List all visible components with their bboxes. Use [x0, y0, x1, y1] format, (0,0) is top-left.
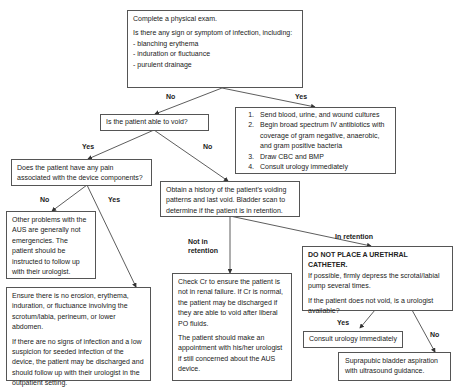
node-history: Obtain a history of the patient's voidin…: [160, 181, 300, 217]
in-retention-p1: If possible, firmly depress the scrotal/…: [308, 271, 447, 292]
ensure-p1: Ensure there is no erosion, erythema, in…: [12, 291, 145, 333]
node-check-cr: Check Cr to ensure the patient is not in…: [172, 273, 292, 381]
history-text: Obtain a history of the patient's voidin…: [166, 185, 294, 216]
consult-urology-text: Consult urology immediately: [309, 334, 397, 344]
node-suprapubic: Suprapubic bladder aspiration with ultra…: [338, 352, 451, 381]
node-in-retention: DO NOT PLACE A URETHRAL CATHETER. If pos…: [302, 246, 453, 311]
node-infection-actions: Send blood, urine, and wound cultures Be…: [235, 107, 396, 174]
node-ensure-no-erosion: Ensure there is no erosion, erythema, in…: [6, 287, 151, 381]
sign-item: - induration or fluctuance: [133, 49, 297, 59]
suprapubic-text: Suprapubic bladder aspiration with ultra…: [345, 356, 444, 377]
edge-label-pain-yes: Yes: [108, 195, 120, 204]
action-item: Draw CBC and BMP: [256, 152, 391, 162]
infection-actions-list: Send blood, urine, and wound cultures Be…: [240, 110, 391, 172]
edge-label-urologist-no: No: [430, 330, 439, 339]
in-retention-p2: If the patient does not void, is a urolo…: [308, 296, 447, 317]
edge-label-not-in-retention: Not in retention: [188, 237, 218, 255]
action-item: Consult urology immediately: [256, 162, 391, 172]
sign-item: - purulent drainage: [133, 60, 297, 70]
ensure-p2: If there are no signs of infection and a…: [12, 337, 145, 389]
check-cr-p2: The patient should make an appointment w…: [178, 333, 286, 375]
node-other-problems: Other problems with the AUS are generall…: [6, 211, 96, 279]
edge-label-urologist-yes: Yes: [337, 318, 349, 327]
node-physical-exam: Complete a physical exam. Is there any s…: [127, 10, 303, 88]
edge-label-pain-no: No: [40, 195, 49, 204]
no-catheter-warning: DO NOT PLACE A URETHRAL CATHETER.: [308, 250, 447, 271]
check-cr-p1: Check Cr to ensure the patient is not in…: [178, 277, 286, 329]
exam-line2: Is there any sign or symptom of infectio…: [133, 28, 297, 38]
edge-label-exam-no: No: [166, 92, 175, 101]
node-able-to-void: Is the patient able to void?: [100, 114, 209, 131]
void-question-text: Is the patient able to void?: [106, 117, 203, 127]
pain-question-text: Does the patient have any pain associate…: [17, 163, 146, 184]
node-pain-question: Does the patient have any pain associate…: [11, 159, 152, 186]
edge-label-void-yes: Yes: [82, 142, 94, 151]
exam-line1: Complete a physical exam.: [133, 14, 297, 24]
other-problems-text: Other problems with the AUS are generall…: [12, 215, 90, 277]
action-item: Begin broad spectrum IV antibiotics with…: [256, 120, 391, 151]
sign-item: - blanching erythema: [133, 39, 297, 49]
edge-label-in-retention: In retention: [335, 232, 373, 241]
edge-label-exam-yes: Yes: [295, 92, 307, 101]
edge-label-void-no: No: [203, 142, 212, 151]
action-item: Send blood, urine, and wound cultures: [256, 110, 391, 120]
node-consult-urology: Consult urology immediately: [303, 331, 403, 348]
infection-signs-list: - blanching erythema - induration or flu…: [133, 39, 297, 70]
